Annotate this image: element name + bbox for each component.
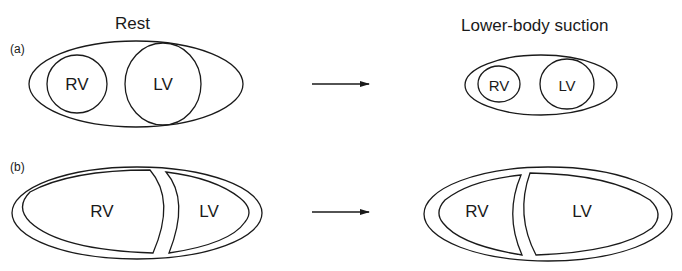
a-suction-lv-label: LV <box>558 77 575 94</box>
b-rest-outer-ellipse <box>12 167 262 259</box>
b-suction-outer-ellipse <box>424 167 672 261</box>
title-rest: Rest <box>115 14 150 34</box>
panel-label-b: (b) <box>10 160 25 174</box>
a-rest-lv-label: LV <box>153 75 173 95</box>
a-rest-rv-label: RV <box>65 75 88 95</box>
b-rest-rv-label: RV <box>90 202 113 222</box>
diagram-canvas <box>0 0 682 271</box>
b-suction-lv-label: LV <box>572 202 592 222</box>
b-suction-rv-label: RV <box>465 202 488 222</box>
panel-label-a: (a) <box>10 42 25 56</box>
a-rest-outer-ellipse <box>29 41 243 127</box>
title-lower-body-suction: Lower-body suction <box>461 16 608 36</box>
b-rest-lv-label: LV <box>199 202 219 222</box>
a-suction-rv-label: RV <box>489 77 510 94</box>
